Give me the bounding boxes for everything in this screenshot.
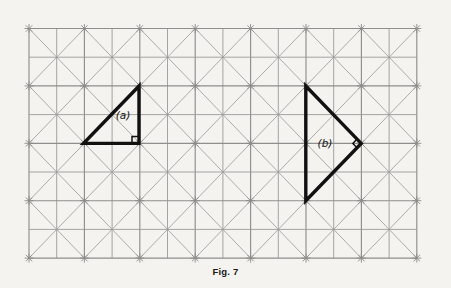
triangle-a-label: (a) [116, 109, 131, 121]
paper-background [0, 0, 451, 288]
figure-caption: Fig. 7 [0, 266, 451, 277]
triangle-b-label: (b) [318, 137, 333, 149]
lattice-figure: (a)(b) [0, 0, 451, 288]
figure-container: (a)(b) Fig. 7 [0, 0, 451, 288]
